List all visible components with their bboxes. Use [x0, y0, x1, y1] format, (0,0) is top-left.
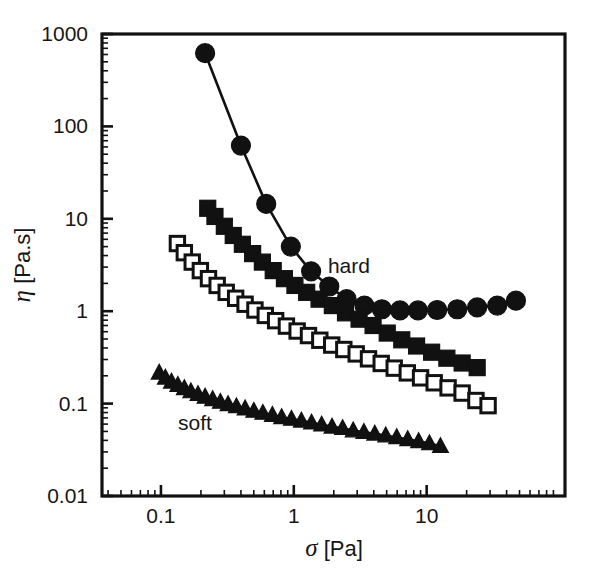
x-axis-title: σ [Pa]: [305, 534, 363, 561]
marker-filled-square: [469, 360, 485, 376]
marker-filled-circle: [488, 296, 507, 315]
marker-filled-circle: [372, 300, 391, 319]
marker-filled-square: [454, 355, 470, 371]
marker-filled-circle: [281, 237, 300, 256]
y-tick-label: 0.1: [59, 392, 88, 415]
y-tick-label: 1000: [41, 22, 88, 45]
y-tick-label: 100: [53, 114, 88, 137]
marker-filled-circle: [257, 194, 276, 213]
y-axis-title: η [Pa.s]: [8, 228, 35, 303]
marker-filled-square: [439, 350, 455, 366]
marker-filled-circle: [428, 301, 447, 320]
y-tick-label: 1: [76, 299, 88, 322]
series-annotation-hard: hard: [328, 254, 370, 277]
marker-open-square: [441, 381, 455, 395]
y-tick-label: 10: [65, 207, 88, 230]
marker-filled-circle: [231, 136, 250, 155]
marker-open-square: [481, 398, 495, 412]
marker-filled-circle: [408, 301, 427, 320]
marker-filled-circle: [468, 298, 487, 317]
figure-viscosity-vs-stress: 0.010.11101001000 0.1110 hardsoft σ [Pa]…: [0, 0, 590, 588]
marker-filled-circle: [302, 262, 321, 281]
marker-filled-circle: [506, 291, 525, 310]
marker-open-square: [427, 376, 441, 390]
marker-filled-square: [379, 325, 395, 341]
series-annotation-soft: soft: [178, 411, 212, 434]
marker-filled-circle: [448, 300, 467, 319]
marker-filled-square: [424, 344, 440, 360]
plot-canvas: 0.010.11101001000 0.1110 hardsoft σ [Pa]…: [0, 0, 590, 588]
marker-filled-circle: [196, 44, 215, 63]
marker-filled-circle: [390, 301, 409, 320]
marker-filled-square: [394, 332, 410, 348]
y-tick-label: 0.01: [47, 484, 88, 507]
x-tick-label: 0.1: [146, 504, 175, 527]
x-tick-label: 10: [415, 504, 438, 527]
marker-open-square: [455, 386, 469, 400]
marker-filled-square: [409, 338, 425, 354]
x-tick-label: 1: [288, 504, 300, 527]
